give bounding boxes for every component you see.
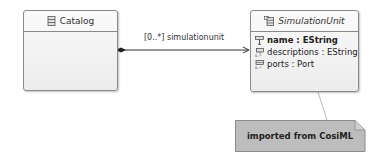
note-connector[interactable] bbox=[318, 92, 327, 120]
svg-text:0..*: 0..* bbox=[255, 54, 261, 57]
class-header: Catalog bbox=[24, 11, 117, 32]
note-text: imported from CosiML bbox=[235, 120, 365, 152]
reference-many-icon: 0..* bbox=[255, 60, 264, 69]
abstract-class-icon bbox=[264, 16, 274, 26]
class-name: Catalog bbox=[60, 16, 95, 26]
id-attribute-icon bbox=[255, 36, 264, 45]
note[interactable]: imported from CosiML bbox=[235, 120, 365, 152]
class-icon bbox=[47, 16, 56, 26]
association-connector[interactable] bbox=[116, 47, 249, 53]
svg-text:0..*: 0..* bbox=[255, 66, 261, 69]
attribute-list: name : EString 0..* descriptions : EStri… bbox=[251, 32, 358, 72]
attribute-ports[interactable]: 0..* ports : Port bbox=[255, 58, 354, 70]
class-catalog[interactable]: Catalog bbox=[23, 10, 118, 91]
class-header: SimulationUnit bbox=[251, 11, 358, 32]
multi-attribute-icon: 0..* bbox=[255, 48, 264, 57]
class-simulationunit[interactable]: SimulationUnit name : EString 0..* descr… bbox=[250, 10, 359, 92]
class-name: SimulationUnit bbox=[278, 16, 344, 26]
association-label: [0..*] simulationunit bbox=[144, 33, 224, 42]
attribute-descriptions[interactable]: 0..* descriptions : EString bbox=[255, 46, 354, 58]
attribute-name[interactable]: name : EString bbox=[255, 34, 354, 46]
